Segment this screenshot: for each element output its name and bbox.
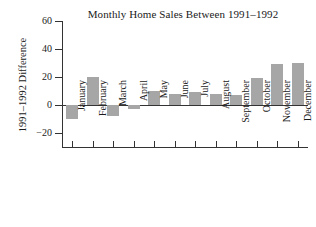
x-axis-tick (195, 141, 196, 147)
x-axis-tick-label-wrapper: May (158, 80, 170, 150)
y-axis-tick (55, 77, 62, 78)
x-axis-tick-label: September (240, 80, 252, 150)
x-axis-tick (154, 141, 155, 147)
x-axis-tick-label-wrapper: June (179, 80, 191, 150)
x-axis-tick-label: May (158, 80, 170, 150)
x-axis-tick-label-wrapper: November (281, 80, 293, 150)
x-axis-tick-label: November (281, 80, 293, 150)
x-axis-tick-label-wrapper: March (117, 80, 129, 150)
y-axis-tick (55, 133, 62, 134)
x-axis-tick-label-wrapper: April (138, 80, 150, 150)
x-axis-tick (93, 141, 94, 147)
x-axis-tick-label-wrapper: October (261, 80, 273, 150)
x-axis-tick (298, 141, 299, 147)
x-axis-tick (216, 141, 217, 147)
x-axis-tick-label: December (302, 80, 314, 150)
x-axis-tick (113, 141, 114, 147)
x-axis-tick-label: October (261, 80, 273, 150)
x-axis-tick-label: June (179, 80, 191, 150)
x-axis-tick-label: July (199, 80, 211, 150)
x-axis-tick (277, 141, 278, 147)
y-axis-line-extension (62, 133, 63, 148)
x-axis-tick-label-wrapper: January (76, 80, 88, 150)
y-axis-tick (55, 49, 62, 50)
x-axis-tick (134, 141, 135, 147)
y-axis-tick-label: 20 (12, 71, 52, 82)
y-axis-tick-label: 0 (12, 99, 52, 110)
chart-figure: Monthly Home Sales Between 1991–1992 199… (0, 0, 316, 227)
y-axis-tick-label: −20 (12, 127, 52, 138)
chart-title: Monthly Home Sales Between 1991–1992 (58, 8, 308, 20)
x-axis-tick-label: March (117, 80, 129, 150)
x-axis-tick-label: August (220, 80, 232, 150)
x-axis-tick-label-wrapper: August (220, 80, 232, 150)
x-axis-tick (257, 141, 258, 147)
x-axis-tick-label-wrapper: February (97, 80, 109, 150)
x-axis-tick-label-wrapper: September (240, 80, 252, 150)
x-axis-tick-label-wrapper: July (199, 80, 211, 150)
x-axis-tick (236, 141, 237, 147)
x-axis-tick (175, 141, 176, 147)
y-axis-tick-label: 40 (12, 43, 52, 54)
y-axis-line (62, 21, 63, 134)
x-axis-tick (72, 141, 73, 147)
x-axis-tick-label: April (138, 80, 150, 150)
y-axis-tick (55, 105, 62, 106)
x-axis-tick-label: January (76, 80, 88, 150)
x-axis-tick-label-wrapper: December (302, 80, 314, 150)
y-axis-tick-label: 60 (12, 15, 52, 26)
x-axis-tick-label: February (97, 80, 109, 150)
y-axis-tick (55, 21, 62, 22)
